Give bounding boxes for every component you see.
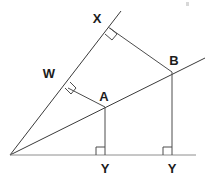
right-angle-marker-y-left bbox=[96, 147, 105, 155]
label-b: B bbox=[169, 53, 178, 68]
label-x: X bbox=[93, 11, 102, 26]
ray-origin-through-A-B bbox=[10, 58, 205, 155]
ray-origin-through-W-X bbox=[10, 11, 121, 155]
label-a: A bbox=[99, 89, 109, 104]
right-angle-marker-y-right bbox=[163, 147, 172, 155]
segment-X-B bbox=[108, 27, 172, 72]
right-angle-marker-w bbox=[65, 82, 76, 94]
label-y-left: Y bbox=[101, 161, 110, 176]
scan-artifact bbox=[186, 2, 189, 6]
label-w: W bbox=[43, 66, 56, 81]
label-y-right: Y bbox=[168, 161, 177, 176]
geometry-figure: X W A B Y Y bbox=[0, 0, 207, 182]
geometry-canvas: X W A B Y Y bbox=[0, 0, 207, 182]
